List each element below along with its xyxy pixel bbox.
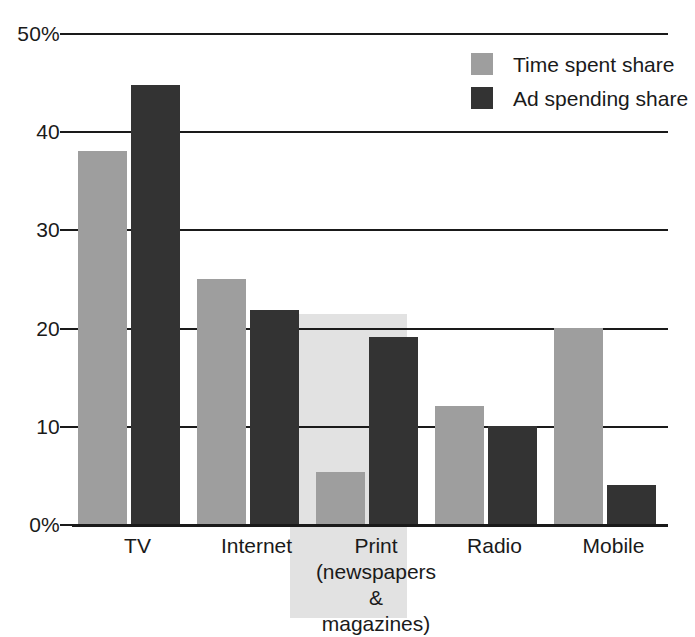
bar-mobile-time-spent-share — [554, 328, 603, 524]
y-tick-mark-20 — [60, 328, 74, 330]
bar-radio-ad-spending-share — [488, 426, 537, 524]
bar-radio-time-spent-share — [435, 406, 484, 524]
legend: Time spent share Ad spending share — [471, 47, 688, 115]
bar-print-time-spent-share — [316, 472, 365, 524]
legend-swatch-light-gray — [471, 53, 493, 75]
y-tick-mark-30 — [60, 229, 74, 231]
y-tick-mark-0 — [60, 524, 74, 526]
legend-item-time-spent-share: Time spent share — [471, 47, 688, 81]
y-tick-label-10: 10 — [36, 416, 60, 437]
bar-internet-time-spent-share — [197, 279, 246, 525]
legend-swatch-dark-gray — [471, 87, 493, 109]
x-tick-label-mobile: Mobile — [554, 533, 673, 559]
x-tick-label-print: Print (newspapers & magazines) — [310, 533, 442, 637]
x-tick-label-tv: TV — [78, 533, 197, 559]
y-tick-label-0: 0% — [29, 514, 60, 535]
legend-label-ad-spending-share: Ad spending share — [513, 88, 688, 109]
legend-label-time-spent-share: Time spent share — [513, 54, 674, 75]
bar-tv-ad-spending-share — [131, 85, 180, 524]
y-tick-label-30: 30 — [36, 219, 60, 240]
x-axis-line — [72, 524, 668, 527]
x-tick-label-radio: Radio — [435, 533, 554, 559]
y-tick-mark-10 — [60, 426, 74, 428]
bar-internet-ad-spending-share — [250, 310, 299, 524]
y-tick-label-20: 20 — [36, 318, 60, 339]
gridline-50 — [72, 33, 668, 35]
legend-item-ad-spending-share: Ad spending share — [471, 81, 688, 115]
y-tick-label-40: 40 — [36, 121, 60, 142]
bar-mobile-ad-spending-share — [607, 485, 656, 524]
y-axis: 50% 40 30 20 10 0% — [0, 0, 60, 618]
y-tick-label-50: 50% — [17, 23, 60, 44]
x-tick-label-internet: Internet — [197, 533, 316, 559]
bar-tv-time-spent-share — [78, 151, 127, 524]
y-tick-mark-50 — [60, 33, 74, 35]
bar-print-ad-spending-share — [369, 337, 418, 524]
y-tick-mark-40 — [60, 131, 74, 133]
